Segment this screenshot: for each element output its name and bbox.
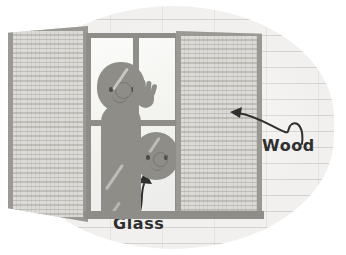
window-sill xyxy=(84,211,264,219)
child-smile xyxy=(112,93,128,103)
hand-palm xyxy=(137,90,154,108)
left-shutter-frame xyxy=(8,26,88,222)
glass-reflection-streak xyxy=(148,137,161,154)
child2-head xyxy=(133,132,175,180)
child2-smile xyxy=(151,162,164,171)
glass-reflection-streak xyxy=(104,201,121,211)
window-glass xyxy=(91,38,175,211)
wood-label: Wood xyxy=(262,136,315,155)
left-shutter xyxy=(8,26,88,222)
figure-child-secondary xyxy=(133,132,175,186)
illustration-canvas: Wood Glass xyxy=(0,0,346,255)
window-mullion-horizontal xyxy=(91,120,175,126)
left-shutter-louvers xyxy=(13,31,83,217)
child2-eye-left xyxy=(146,155,150,160)
